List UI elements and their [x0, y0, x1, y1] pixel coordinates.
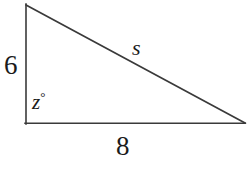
triangle-hypotenuse — [26, 5, 246, 123]
right-triangle-figure: 6 8 s z° — [0, 0, 252, 174]
degree-symbol-icon: ° — [40, 89, 45, 104]
side-label-hypotenuse: s — [132, 37, 141, 59]
side-label-horizontal-leg: 8 — [116, 133, 130, 160]
side-label-vertical-leg: 6 — [4, 52, 18, 79]
angle-label-variable: z — [32, 90, 40, 114]
angle-label-z: z° — [32, 92, 45, 113]
